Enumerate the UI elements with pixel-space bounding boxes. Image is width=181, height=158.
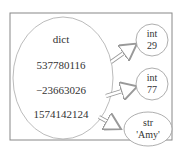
dict-key-2: −23663026 xyxy=(36,84,87,96)
node-type: int xyxy=(147,72,158,83)
node-value: 29 xyxy=(147,40,157,51)
arrow-icon xyxy=(111,45,135,62)
dict-key-1: 537780116 xyxy=(36,59,86,71)
dict-reference-diagram: dict 537780116 −23663026 1574142124 int … xyxy=(0,0,181,158)
node-value: 'Amy' xyxy=(136,129,160,140)
node-type: str xyxy=(143,117,154,128)
node-type: int xyxy=(147,28,158,39)
arrow-icon xyxy=(99,117,119,128)
dict-label: dict xyxy=(53,33,70,45)
node-value: 77 xyxy=(147,84,157,95)
dict-key-3: 1574142124 xyxy=(34,108,90,120)
